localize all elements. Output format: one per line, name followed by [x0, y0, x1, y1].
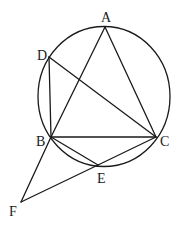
segment-ce [98, 137, 156, 165]
point-label-d: D [37, 48, 47, 63]
circumscribed-circle [38, 27, 170, 167]
geometry-diagram: A D B C E F [0, 0, 184, 227]
point-label-e: E [97, 171, 106, 186]
point-label-f: F [9, 204, 17, 219]
segment-db [49, 57, 51, 137]
segment-dc [49, 57, 156, 137]
segment-ab [51, 27, 105, 137]
segment-fe [21, 165, 98, 202]
point-label-b: B [36, 134, 45, 149]
segment-be [51, 137, 98, 165]
segment-ac [105, 27, 156, 137]
point-label-c: C [160, 134, 169, 149]
point-label-a: A [101, 10, 112, 25]
